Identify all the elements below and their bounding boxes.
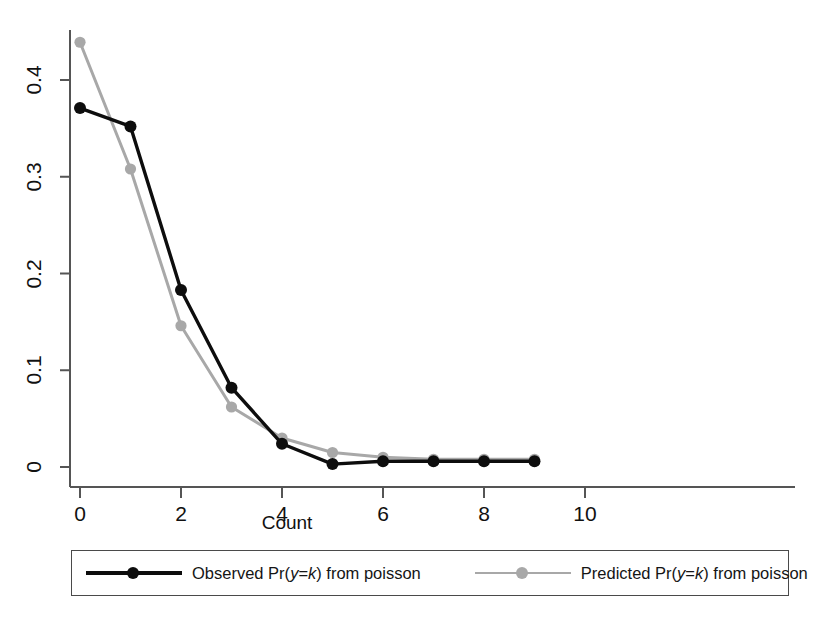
data-point <box>74 37 85 48</box>
data-point <box>175 320 186 331</box>
legend-label-equals: = <box>685 564 695 582</box>
legend-marker-observed <box>127 567 139 579</box>
data-point <box>529 455 541 467</box>
series-line <box>80 108 535 464</box>
legend-label-observed: Observed Pr(y=k) from poisson <box>192 564 421 583</box>
x-tick-label: 6 <box>358 502 408 526</box>
data-point <box>428 455 440 467</box>
series-line <box>80 42 535 459</box>
legend: Observed Pr(y=k) from poisson Predicted … <box>71 550 789 596</box>
data-point <box>226 401 237 412</box>
chart-figure: 0 0.1 0.2 0.3 0.4 0 2 4 6 8 10 Count Obs… <box>0 0 837 625</box>
y-tick-label: 0.2 <box>14 248 54 300</box>
legend-label-part: ) from poisson <box>703 564 808 582</box>
y-tick-label: 0 <box>14 441 54 493</box>
data-point <box>175 284 187 296</box>
legend-item-predicted: Predicted Pr(y=k) from poisson <box>475 551 808 595</box>
x-axis <box>70 487 795 498</box>
legend-label-predicted: Predicted Pr(y=k) from poisson <box>581 564 808 583</box>
y-axis <box>60 30 70 487</box>
legend-marker-predicted <box>516 567 528 579</box>
data-point <box>226 382 238 394</box>
x-axis-title: Count <box>227 512 347 534</box>
legend-label-equals: = <box>298 564 308 582</box>
legend-label-variable-k: k <box>695 564 703 582</box>
x-tick-label: 2 <box>156 502 206 526</box>
x-tick-label: 10 <box>560 502 610 526</box>
data-point <box>74 102 86 114</box>
data-point <box>327 447 338 458</box>
data-point <box>327 458 339 470</box>
data-point <box>478 455 490 467</box>
data-point <box>125 163 136 174</box>
plot-svg <box>0 0 837 540</box>
legend-key-observed <box>86 564 182 582</box>
legend-key-predicted <box>475 564 571 582</box>
y-tick-label: 0.4 <box>14 54 54 106</box>
legend-label-part: ) from poisson <box>316 564 421 582</box>
series-predicted <box>74 37 540 465</box>
data-series-group <box>74 37 541 470</box>
y-axis-ticks <box>60 80 70 467</box>
plot-area: 0 0.1 0.2 0.3 0.4 0 2 4 6 8 10 Count <box>0 0 837 540</box>
x-tick-label: 0 <box>55 502 105 526</box>
series-observed <box>74 102 541 470</box>
data-point <box>377 455 389 467</box>
x-tick-label: 8 <box>459 502 509 526</box>
y-tick-label: 0.1 <box>14 344 54 396</box>
x-axis-ticks <box>80 487 585 498</box>
legend-label-part: Observed Pr( <box>192 564 290 582</box>
data-point <box>276 438 288 450</box>
legend-item-observed: Observed Pr(y=k) from poisson <box>86 551 421 595</box>
legend-label-part: Predicted Pr( <box>581 564 677 582</box>
data-point <box>125 120 137 132</box>
y-tick-label: 0.3 <box>14 151 54 203</box>
